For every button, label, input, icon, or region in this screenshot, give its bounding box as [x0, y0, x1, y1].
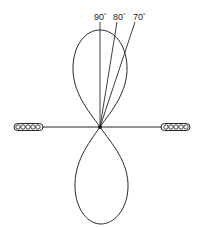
angle-line-70	[100, 22, 135, 127]
radiation-pattern-diagram	[0, 0, 203, 227]
lower-lobe	[75, 127, 128, 224]
angle-label-70: 70°	[133, 13, 145, 22]
angle-line-80	[100, 22, 117, 127]
feed-point	[98, 125, 102, 129]
left-insulator-icon	[14, 124, 43, 131]
angle-label-80: 80°	[113, 13, 125, 22]
angle-label-90: 90°	[94, 13, 106, 22]
right-insulator-icon	[161, 124, 190, 131]
